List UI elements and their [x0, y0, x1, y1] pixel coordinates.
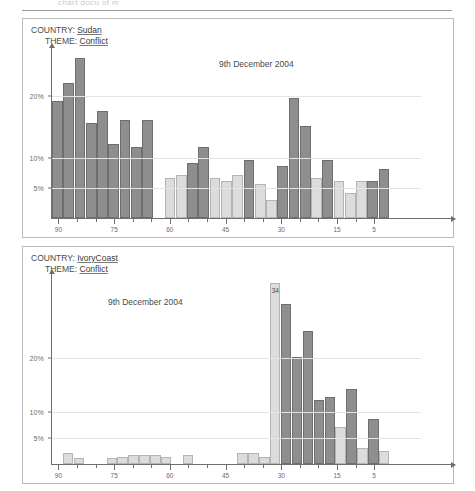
y-tick-label: 10% — [30, 154, 44, 161]
x-tick-mark — [96, 219, 97, 222]
bar[interactable] — [334, 181, 345, 218]
y-tick-label: 5% — [33, 185, 43, 192]
x-tick-mark — [207, 465, 208, 468]
bar[interactable] — [325, 397, 335, 464]
bar[interactable] — [303, 331, 313, 464]
x-tick-mark-major — [58, 219, 59, 224]
bar[interactable] — [379, 169, 390, 218]
bar-series-ivorycoast: 34 — [52, 273, 421, 464]
plot-area-ivorycoast: days ago 34 5%10%20%9075604530155 — [51, 273, 421, 465]
gridline — [52, 438, 421, 439]
bar[interactable] — [367, 181, 378, 218]
x-tick-mark — [188, 465, 189, 468]
bar[interactable] — [300, 126, 311, 218]
x-tick-mark — [318, 219, 319, 222]
bar[interactable] — [161, 457, 171, 464]
bar[interactable] — [368, 419, 378, 464]
country-label: COUNTRY: — [31, 25, 75, 35]
x-tick-label: 60 — [166, 226, 173, 233]
x-tick-mark-major — [374, 219, 375, 224]
bar[interactable] — [237, 453, 247, 464]
x-tick-label: 75 — [111, 472, 118, 479]
bar[interactable] — [150, 455, 160, 464]
bar[interactable] — [165, 178, 176, 218]
x-tick-label: 30 — [278, 226, 285, 233]
bar[interactable] — [248, 453, 258, 464]
bar[interactable] — [221, 181, 232, 218]
x-tick-mark — [188, 219, 189, 222]
bar[interactable] — [210, 178, 221, 218]
y-tick-label: 20% — [30, 93, 44, 100]
scan-top-text-fragment: chart docu of m — [58, 0, 119, 7]
x-tick-mark — [207, 219, 208, 222]
x-tick-mark — [356, 465, 357, 468]
gridline — [52, 96, 421, 97]
bar[interactable] — [139, 455, 149, 464]
x-tick-mark-major — [58, 465, 59, 470]
x-tick-label: 75 — [111, 226, 118, 233]
bar[interactable] — [346, 389, 356, 464]
y-tick-mark — [48, 411, 52, 412]
bar[interactable] — [255, 184, 266, 218]
gridline — [52, 358, 421, 359]
bar[interactable] — [379, 451, 389, 464]
x-tick-mark-major — [337, 219, 338, 224]
bar[interactable]: 34 — [270, 283, 280, 464]
bar[interactable] — [97, 111, 108, 219]
bar[interactable] — [187, 163, 198, 218]
x-tick-mark — [96, 465, 97, 468]
bar[interactable] — [232, 175, 243, 218]
gridline — [52, 188, 421, 189]
country-meta-row: COUNTRY: IvoryCoast — [31, 253, 118, 263]
x-tick-label: 45 — [222, 226, 229, 233]
bar[interactable] — [259, 457, 269, 464]
bar[interactable] — [108, 144, 119, 218]
country-meta-row: COUNTRY: Sudan — [31, 25, 102, 35]
x-tick-label: 30 — [278, 472, 285, 479]
bar[interactable] — [335, 427, 345, 464]
x-axis: days ago — [51, 464, 455, 465]
bar[interactable] — [311, 178, 322, 218]
x-tick-mark — [151, 219, 152, 222]
theme-value-link[interactable]: Conflict — [80, 36, 108, 46]
bar[interactable] — [277, 166, 288, 218]
bar[interactable] — [266, 200, 277, 218]
x-tick-mark — [77, 219, 78, 222]
bar[interactable] — [356, 181, 367, 218]
y-tick-mark — [48, 358, 52, 359]
x-tick-label: 90 — [55, 472, 62, 479]
bar[interactable] — [63, 453, 73, 464]
bar[interactable] — [86, 123, 97, 218]
bar[interactable] — [74, 458, 84, 464]
country-value-link[interactable]: IvoryCoast — [77, 253, 118, 263]
chart-panel-sudan: COUNTRY: Sudan THEME: Conflict 9th Decem… — [22, 18, 454, 238]
x-tick-mark — [133, 465, 134, 468]
x-tick-label: 15 — [333, 472, 340, 479]
bar[interactable] — [128, 455, 138, 464]
x-tick-mark — [318, 465, 319, 468]
x-tick-label: 5 — [372, 472, 376, 479]
x-tick-label: 45 — [222, 472, 229, 479]
y-tick-mark — [48, 188, 52, 189]
country-value-link[interactable]: Sudan — [77, 25, 102, 35]
bar[interactable] — [107, 458, 117, 464]
bar[interactable] — [183, 455, 193, 464]
bar[interactable] — [142, 120, 153, 218]
bar[interactable] — [117, 457, 127, 464]
bar[interactable] — [357, 448, 367, 464]
bar[interactable] — [345, 193, 356, 218]
x-tick-mark-major — [170, 219, 171, 224]
bar[interactable] — [120, 120, 131, 218]
gridline — [52, 158, 421, 159]
bar[interactable] — [281, 304, 291, 464]
y-tick-label: 20% — [30, 355, 44, 362]
bar[interactable] — [75, 58, 86, 218]
bar[interactable] — [52, 101, 63, 218]
x-axis: days ago — [51, 218, 455, 219]
bar[interactable] — [176, 175, 187, 218]
bar[interactable] — [314, 400, 324, 464]
bar[interactable] — [63, 83, 74, 218]
y-tick-mark — [48, 157, 52, 158]
chart-panel-ivorycoast: COUNTRY: IvoryCoast THEME: Conflict 9th … — [22, 246, 454, 484]
x-tick-mark — [300, 219, 301, 222]
